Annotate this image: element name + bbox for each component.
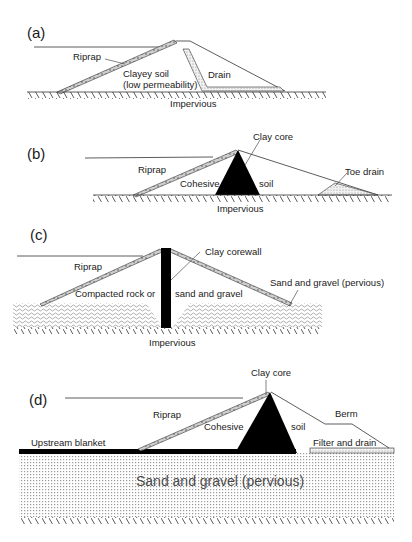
material-label-line1: Clayey soil <box>123 68 169 79</box>
drain-zone <box>183 49 284 91</box>
panel-a: (a) Riprap Clayey soil (low permeability… <box>27 24 326 109</box>
embankment-dam-types-diagram: (a) Riprap Clayey soil (low permeability… <box>0 0 412 542</box>
impervious-foundation-hatch <box>13 327 322 334</box>
riprap-label: Riprap <box>73 51 101 62</box>
impervious-foundation-hatch <box>93 195 392 202</box>
material-label-line2: (low permeability) <box>123 79 197 90</box>
pervious-layer-right <box>173 303 322 327</box>
filter-and-drain-label: Filter and drain <box>313 437 376 448</box>
toe-drain-label: Toe drain <box>345 166 384 177</box>
clay-core-leader <box>245 140 260 165</box>
berm-label: Berm <box>335 408 358 419</box>
clay-core <box>235 392 297 453</box>
panel-d: (d) Clay core Riprap Berm Cohesive soil … <box>19 367 394 524</box>
panel-c: (c) Clay corewall Riprap Compacted rock … <box>13 226 384 348</box>
filter-and-drain <box>310 448 394 453</box>
material-left-label: Cohesive <box>204 421 244 432</box>
corewall-label: Clay corewall <box>205 246 262 257</box>
panel-a-label: (a) <box>27 24 45 41</box>
clay-core-label: Clay core <box>251 367 291 378</box>
toe-drain <box>318 183 378 195</box>
riprap-leader <box>105 59 125 64</box>
panel-c-label: (c) <box>30 226 48 243</box>
panel-d-label: (d) <box>29 391 47 408</box>
clay-core-label: Clay core <box>253 131 293 142</box>
pervious-layer-label: Sand and gravel (pervious) <box>270 277 384 288</box>
material-right-label: soil <box>291 421 305 432</box>
material-left-label: Cohesive <box>180 178 220 189</box>
water-level-line <box>85 157 213 158</box>
foundation-label: Impervious <box>149 337 196 348</box>
material-right-label: sand and gravel <box>175 288 243 299</box>
panel-b-label: (b) <box>27 145 45 162</box>
pervious-layer-left <box>13 303 162 327</box>
riprap-label: Riprap <box>138 164 166 175</box>
foundation-label: Impervious <box>217 203 264 214</box>
material-left-label: Compacted rock or <box>75 288 155 299</box>
impervious-foundation-hatch <box>19 517 394 524</box>
drain-label: Drain <box>208 69 231 80</box>
pervious-foundation-label: Sand and gravel (pervious) <box>136 473 304 489</box>
riprap-label: Riprap <box>74 261 102 272</box>
material-right-label: soil <box>259 178 273 189</box>
foundation-label: Impervious <box>170 98 217 109</box>
panel-b: (b) Clay core Riprap Cohesive soil Toe d… <box>27 131 392 214</box>
clay-corewall <box>161 248 171 328</box>
upstream-blanket-label: Upstream blanket <box>31 437 106 448</box>
riprap-label: Riprap <box>153 409 181 420</box>
